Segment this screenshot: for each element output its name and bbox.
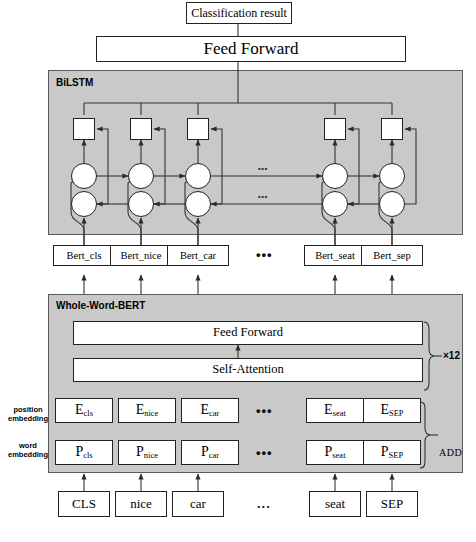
position-embedding-base: E bbox=[201, 403, 210, 418]
position-embedding-box-0[interactable]: Ecls bbox=[55, 398, 113, 423]
position-embedding-box-1[interactable]: Enice bbox=[118, 398, 176, 423]
encoder-repeat-label: ×12 bbox=[443, 350, 460, 361]
bert-output-box-0[interactable]: Bert_cls bbox=[53, 245, 115, 266]
word-embedding-line2: embedding bbox=[5, 450, 51, 459]
bilstm-forward-cell bbox=[71, 163, 97, 189]
word-embedding-sub: nice bbox=[144, 451, 158, 460]
bert-output-label: Bert_seat bbox=[315, 250, 355, 261]
bilstm-output-square bbox=[324, 118, 346, 140]
position-embedding-line1: position bbox=[5, 405, 51, 414]
bert-self-attention-label: Self-Attention bbox=[212, 363, 284, 376]
word-embedding-sub: car bbox=[209, 451, 219, 460]
position-embedding-side-label: position embedding bbox=[5, 405, 51, 424]
position-embedding-base: E bbox=[75, 403, 84, 418]
input-token-box-4[interactable]: SEP bbox=[366, 491, 418, 517]
bilstm-backward-ellipsis: ••• bbox=[258, 192, 268, 201]
bilstm-backward-cell bbox=[322, 191, 348, 217]
input-token-box-1[interactable]: nice bbox=[115, 491, 167, 517]
word-embedding-base: P bbox=[324, 445, 332, 460]
add-operation-label: ADD bbox=[439, 447, 462, 458]
bilstm-forward-cell bbox=[128, 163, 154, 189]
word-embedding-base: P bbox=[381, 445, 389, 460]
input-token-ellipsis: ... bbox=[257, 496, 271, 511]
bilstm-output-square bbox=[73, 118, 95, 140]
input-token-label: car bbox=[190, 497, 206, 511]
bert-output-label: Bert_car bbox=[180, 250, 216, 261]
word-embedding-line1: word bbox=[5, 441, 51, 450]
bert-output-box-3[interactable]: Bert_seat bbox=[304, 245, 366, 266]
bilstm-panel-title: BiLSTM bbox=[56, 77, 93, 88]
word-embedding-base: P bbox=[136, 445, 144, 460]
classification-result-label: Classification result bbox=[191, 7, 287, 20]
word-embedding-sub: cls bbox=[83, 451, 92, 460]
bert-output-label: Bert_sep bbox=[373, 250, 410, 261]
input-token-label: SEP bbox=[381, 497, 403, 511]
bilstm-backward-cell bbox=[71, 191, 97, 217]
classification-result-box[interactable]: Classification result bbox=[186, 2, 292, 24]
bert-feed-forward-box[interactable]: Feed Forward bbox=[73, 321, 423, 345]
bilstm-backward-cell bbox=[379, 191, 405, 217]
feed-forward-top-label: Feed Forward bbox=[204, 40, 299, 58]
bert-output-box-2[interactable]: Bert_car bbox=[167, 245, 229, 266]
position-embedding-sub: cls bbox=[84, 409, 93, 418]
bert-output-label: Bert_cls bbox=[67, 250, 102, 261]
position-embedding-box-2[interactable]: Ecar bbox=[181, 398, 239, 423]
word-embedding-box-1[interactable]: Pnice bbox=[118, 440, 176, 465]
input-token-label: seat bbox=[325, 497, 345, 511]
bert-output-box-4[interactable]: Bert_sep bbox=[361, 245, 423, 266]
bert-output-ellipsis: ••• bbox=[256, 247, 273, 262]
input-token-label: CLS bbox=[72, 497, 96, 511]
word-embedding-base: P bbox=[75, 445, 83, 460]
position-embedding-sub: car bbox=[209, 409, 219, 418]
bilstm-output-square bbox=[381, 118, 403, 140]
bilstm-output-square bbox=[130, 118, 152, 140]
word-embedding-side-label: word embedding bbox=[5, 441, 51, 460]
word-embedding-sub: seat bbox=[332, 451, 345, 460]
bert-feed-forward-label: Feed Forward bbox=[213, 326, 283, 339]
bilstm-forward-cell bbox=[322, 163, 348, 189]
position-embedding-base: E bbox=[380, 403, 389, 418]
position-embedding-sub: seat bbox=[333, 409, 346, 418]
input-token-box-0[interactable]: CLS bbox=[58, 491, 110, 517]
word-embedding-box-0[interactable]: Pcls bbox=[55, 440, 113, 465]
position-embedding-box-4[interactable]: ESEP bbox=[363, 398, 421, 423]
word-embedding-base: P bbox=[201, 445, 209, 460]
bert-output-label: Bert_nice bbox=[121, 250, 162, 261]
bilstm-forward-cell bbox=[379, 163, 405, 189]
word-embedding-box-3[interactable]: Pseat bbox=[306, 440, 364, 465]
input-token-label: nice bbox=[130, 497, 152, 511]
whole-word-bert-panel-title: Whole-Word-BERT bbox=[56, 300, 145, 311]
feed-forward-top-box[interactable]: Feed Forward bbox=[96, 36, 406, 62]
position-embedding-ellipsis: ••• bbox=[256, 403, 273, 418]
bilstm-backward-cell bbox=[128, 191, 154, 217]
bilstm-output-square bbox=[187, 118, 209, 140]
input-token-box-3[interactable]: seat bbox=[309, 491, 361, 517]
position-embedding-box-3[interactable]: Eseat bbox=[306, 398, 364, 423]
position-embedding-base: E bbox=[136, 403, 145, 418]
bert-self-attention-box[interactable]: Self-Attention bbox=[73, 358, 423, 382]
word-embedding-sub: SEP bbox=[389, 451, 404, 460]
architecture-diagram: Classification result Feed Forward BiLST… bbox=[0, 0, 476, 542]
bilstm-backward-cell bbox=[185, 191, 211, 217]
position-embedding-sub: nice bbox=[144, 409, 158, 418]
position-embedding-sub: SEP bbox=[389, 409, 404, 418]
bilstm-forward-cell bbox=[185, 163, 211, 189]
position-embedding-base: E bbox=[324, 403, 333, 418]
word-embedding-ellipsis: ••• bbox=[256, 445, 273, 460]
bilstm-forward-ellipsis: ••• bbox=[258, 164, 268, 173]
position-embedding-line2: embedding bbox=[5, 414, 51, 423]
bert-output-box-1[interactable]: Bert_nice bbox=[110, 245, 172, 266]
word-embedding-box-2[interactable]: Pcar bbox=[181, 440, 239, 465]
word-embedding-box-4[interactable]: PSEP bbox=[363, 440, 421, 465]
input-token-box-2[interactable]: car bbox=[172, 491, 224, 517]
